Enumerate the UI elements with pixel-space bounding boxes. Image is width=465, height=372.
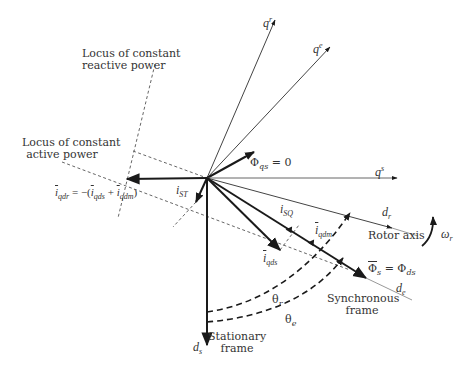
d-r-axis — [207, 178, 392, 228]
vector-diagram: qr qe qs dr de ds Locus of constant reac… — [0, 0, 465, 372]
q-r-label: qr — [263, 14, 272, 29]
q-s-label: qs — [375, 163, 384, 178]
close-paren: ) — [134, 186, 138, 198]
i-qds-subscript: qds — [266, 258, 277, 267]
i-qds-vector — [207, 178, 280, 250]
phi-s-vector — [207, 178, 366, 278]
i-qdr-equation: iqdr = −(iqds + iqdm) — [55, 186, 137, 203]
q-e-label: qe — [313, 40, 323, 55]
d-s-subscript: s — [199, 347, 202, 356]
synchronous-line2: frame — [327, 305, 397, 317]
phi-qs-subscript: qs — [259, 162, 268, 171]
theta-e-text: θ — [285, 313, 292, 326]
i-qds-label: iqds — [263, 252, 277, 269]
theta-r-label: θr — [272, 294, 282, 310]
i-qdm-subscript: qdm — [318, 230, 332, 239]
phi-qs-vector — [207, 152, 254, 178]
d-e-subscript: e — [402, 288, 406, 297]
phi-s-equals: = Φ — [381, 262, 406, 275]
i-qdr-vector — [127, 178, 207, 179]
q-s-superscript: s — [381, 164, 384, 173]
stationary-frame-label: Stationary frame — [208, 331, 266, 355]
theta-e-subscript: e — [292, 319, 297, 328]
q-e-superscript: e — [319, 41, 323, 50]
i-qdr-subscript: qdr — [58, 192, 69, 201]
phi-s-label: Φs = Φds — [368, 263, 416, 279]
theta-r-text: θ — [272, 293, 279, 306]
locus-reactive-label: Locus of constant reactive power — [82, 48, 162, 72]
i-st-vector — [196, 178, 207, 202]
theta-r-subscript: r — [279, 299, 283, 308]
i-st-subscript: ST — [179, 190, 187, 199]
theta-e-label: θe — [285, 314, 296, 330]
i-sq-subscript: SQ — [283, 209, 293, 218]
stationary-line2: frame — [208, 343, 266, 355]
synchronous-frame-label: Synchronous frame — [327, 293, 397, 317]
projection-line-reactive — [133, 151, 207, 178]
i-qdr-equals: = −( — [69, 186, 91, 198]
omega-r-subscript: r — [449, 234, 452, 243]
i-qdm-label: iqdm — [315, 224, 332, 241]
rotor-axis-label: Rotor axis — [368, 230, 425, 242]
d-s-label: ds — [193, 341, 202, 358]
phi-qs-label: Φqs = 0 — [250, 157, 291, 173]
d-r-subscript: r — [388, 212, 391, 221]
locus-active-line2: active power — [22, 149, 102, 161]
phi-s-text: Φ — [368, 262, 377, 275]
i-qds-term-subscript: qds — [94, 192, 105, 201]
omega-r-label: ωr — [441, 228, 453, 245]
plus-sign: + — [105, 186, 117, 198]
phi-qs-text: Φ — [250, 156, 259, 169]
q-r-axis — [207, 20, 275, 178]
d-r-label: dr — [382, 206, 391, 223]
i-qdm-term-subscript: qdm — [120, 192, 134, 201]
phi-ds-subscript: ds — [406, 268, 415, 277]
phi-qs-value: = 0 — [268, 156, 291, 169]
locus-active-label: Locus of constant active power — [22, 137, 102, 161]
i-st-label: iST — [176, 184, 188, 201]
i-sq-label: iSQ — [280, 203, 293, 220]
locus-reactive-line2: reactive power — [82, 60, 162, 72]
q-r-superscript: r — [269, 15, 272, 24]
projection-line-ist — [173, 202, 196, 227]
